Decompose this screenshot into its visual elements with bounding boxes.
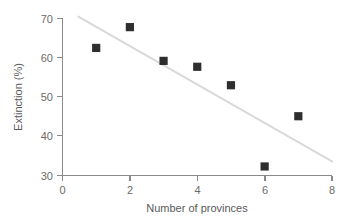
- x-tick-marks: [63, 176, 333, 182]
- x-tick-labels: 0 2 4 6 8: [59, 184, 335, 196]
- y-tick-marks: [57, 19, 63, 176]
- plot-canvas: 70 60 50 40 30 0 2 4 6 8 Number of provi…: [0, 0, 346, 222]
- scatter-plot-figure: 70 60 50 40 30 0 2 4 6 8 Number of provi…: [0, 0, 346, 222]
- y-tick-label-70: 70: [41, 13, 53, 25]
- y-tick-label-50: 50: [41, 91, 53, 103]
- axes-group: [63, 18, 333, 176]
- data-point-1: [126, 23, 134, 31]
- y-tick-label-40: 40: [41, 130, 53, 142]
- data-point-0: [92, 44, 100, 52]
- x-tick-label-6: 6: [262, 184, 268, 196]
- x-tick-label-4: 4: [194, 184, 200, 196]
- x-tick-label-8: 8: [329, 184, 335, 196]
- y-tick-label-30: 30: [41, 170, 53, 182]
- data-point-6: [294, 112, 302, 120]
- data-point-4: [227, 81, 235, 89]
- data-point-2: [159, 57, 167, 65]
- data-point-5: [261, 162, 269, 170]
- data-point-3: [193, 63, 201, 71]
- x-tick-label-0: 0: [59, 184, 65, 196]
- data-markers-group: [92, 23, 302, 171]
- x-tick-label-2: 2: [127, 184, 133, 196]
- y-tick-labels: 70 60 50 40 30: [41, 13, 53, 182]
- y-axis-title: Extinction (%): [12, 63, 24, 131]
- x-axis-title: Number of provinces: [146, 202, 248, 214]
- trend-line: [78, 17, 332, 162]
- y-tick-label-60: 60: [41, 52, 53, 64]
